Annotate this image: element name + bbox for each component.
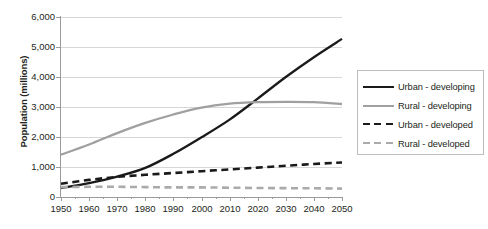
legend-label: Rural - developed	[398, 139, 470, 149]
legend-swatch-urban-developing	[363, 81, 394, 93]
series-line-rural-developing	[61, 102, 342, 155]
legend-label: Urban - developed	[398, 120, 473, 130]
legend-item[interactable]: Rural - developing	[363, 96, 478, 115]
legend-swatch-rural-developed	[363, 138, 394, 150]
legend-item[interactable]: Urban - developing	[363, 77, 478, 96]
legend-swatch-rural-developing	[363, 100, 394, 112]
chart-legend: Urban - developing Rural - developing Ur…	[357, 70, 484, 155]
legend-item[interactable]: Rural - developed	[363, 134, 478, 153]
legend-label: Rural - developing	[398, 101, 472, 111]
chart-figure: Population (millions) 6,0005,0004,0003,0…	[0, 0, 488, 229]
legend-item[interactable]: Urban - developed	[363, 115, 478, 134]
legend-swatch-urban-developed	[363, 119, 394, 131]
legend-label: Urban - developing	[398, 82, 475, 92]
series-line-rural-developed	[61, 187, 342, 189]
series-line-urban-developing	[61, 39, 342, 188]
